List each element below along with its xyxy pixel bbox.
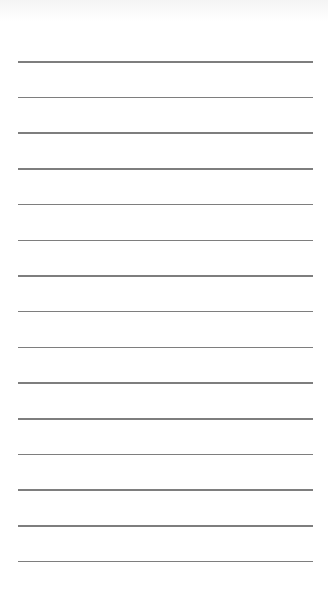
ruled-line: [18, 168, 313, 170]
ruled-line: [18, 561, 313, 563]
ruled-line: [18, 240, 313, 242]
ruled-lines: [18, 0, 313, 603]
ruled-line: [18, 204, 313, 206]
ruled-line: [18, 418, 313, 420]
ruled-line: [18, 489, 313, 491]
lined-paper-page: [0, 0, 328, 603]
ruled-line: [18, 61, 313, 63]
ruled-line: [18, 97, 313, 99]
ruled-line: [18, 132, 313, 134]
ruled-line: [18, 347, 313, 349]
ruled-line: [18, 454, 313, 456]
ruled-line: [18, 275, 313, 277]
ruled-line: [18, 382, 313, 384]
ruled-line: [18, 525, 313, 527]
ruled-line: [18, 311, 313, 313]
